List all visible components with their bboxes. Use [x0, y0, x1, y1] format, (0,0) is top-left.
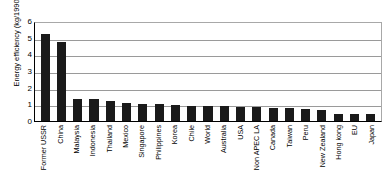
x-label-slot: EU	[347, 123, 363, 193]
x-label-slot: Non APEC LA	[249, 123, 265, 193]
bar-slot	[200, 23, 216, 121]
bar	[89, 99, 98, 121]
y-tick-label: 4	[28, 51, 32, 59]
y-tick-label: 3	[28, 68, 32, 76]
x-tick-label: EU	[352, 125, 359, 135]
bar-slot	[184, 23, 200, 121]
x-label-slot: Former USSR	[36, 123, 52, 193]
x-tick-label: Taiwan	[286, 125, 293, 147]
bar-slot	[118, 23, 134, 121]
y-tick-label: 6	[28, 18, 32, 26]
bar	[155, 104, 164, 121]
x-tick-label: Indonesia	[90, 125, 97, 156]
x-tick-label: Peru	[303, 125, 310, 140]
x-tick-label: Japan	[368, 125, 375, 145]
x-tick-label: Korea	[172, 125, 179, 144]
bar	[41, 34, 50, 121]
x-label-slot: Canada	[265, 123, 281, 193]
y-tick-label: 1	[28, 101, 32, 109]
bar	[236, 107, 245, 121]
bar-slot	[151, 23, 167, 121]
x-axis-tick-labels: Former USSRChinaMalaysiaIndonesiaThailan…	[34, 123, 382, 193]
x-label-slot: Hong kong	[331, 123, 347, 193]
bar	[122, 103, 131, 121]
bar-slot	[314, 23, 330, 121]
x-tick-label: USA	[237, 125, 244, 140]
bar-slot	[330, 23, 346, 121]
x-tick-label: Chile	[188, 125, 195, 141]
x-label-slot: New Zealand	[314, 123, 330, 193]
bar	[285, 108, 294, 121]
bar-slot	[86, 23, 102, 121]
bar-series	[35, 23, 381, 121]
bar-slot	[265, 23, 281, 121]
bar	[220, 106, 229, 121]
bar-chart: Energy efficiency (kg/1990 US$) 0123456 …	[0, 0, 392, 194]
bar	[171, 105, 180, 121]
plot-area	[34, 22, 382, 122]
bar-slot	[232, 23, 248, 121]
x-label-slot: Peru	[298, 123, 314, 193]
bar-slot	[216, 23, 232, 121]
bar-slot	[102, 23, 118, 121]
x-tick-label: Thailand	[106, 125, 113, 153]
x-label-slot: Mexico	[118, 123, 134, 193]
x-tick-label: Hong kong	[335, 125, 342, 160]
bar	[138, 104, 147, 122]
x-label-slot: Taiwan	[282, 123, 298, 193]
bar	[317, 110, 326, 121]
bar-slot	[346, 23, 362, 121]
bar-slot	[298, 23, 314, 121]
y-tick-label: 2	[28, 85, 32, 93]
x-tick-label: China	[57, 125, 64, 144]
bar-slot	[135, 23, 151, 121]
x-tick-label: Canada	[270, 125, 277, 150]
bar	[73, 99, 82, 122]
bar	[350, 114, 359, 122]
bar	[334, 114, 343, 122]
x-label-slot: Korea	[167, 123, 183, 193]
x-label-slot: Philippines	[151, 123, 167, 193]
y-axis-tick-labels: 0123456	[20, 22, 32, 122]
x-tick-label: World	[204, 125, 211, 144]
x-tick-label: Mexico	[122, 125, 129, 148]
x-tick-label: New Zealand	[319, 125, 326, 167]
bar	[366, 114, 375, 121]
bar-slot	[37, 23, 53, 121]
x-label-slot: Malaysia	[69, 123, 85, 193]
bar	[203, 106, 212, 121]
x-label-slot: Thailand	[102, 123, 118, 193]
bar	[57, 42, 66, 121]
y-tick-label: 5	[28, 35, 32, 43]
bar-slot	[167, 23, 183, 121]
x-label-slot: Chile	[183, 123, 199, 193]
x-label-slot: Japan	[364, 123, 380, 193]
x-label-slot: USA	[233, 123, 249, 193]
x-label-slot: Indonesia	[85, 123, 101, 193]
x-tick-label: Australia	[221, 125, 228, 153]
bar-slot	[363, 23, 379, 121]
bar	[269, 108, 278, 121]
bar	[252, 107, 261, 121]
x-tick-label: Non APEC LA	[253, 125, 260, 170]
bar	[187, 106, 196, 121]
x-tick-label: Philippines	[155, 125, 162, 160]
bar-slot	[70, 23, 86, 121]
x-label-slot: Australia	[216, 123, 232, 193]
bar-slot	[249, 23, 265, 121]
bar	[301, 109, 310, 121]
bar-slot	[53, 23, 69, 121]
bar	[106, 101, 115, 121]
x-label-slot: China	[52, 123, 68, 193]
x-label-slot: Singapore	[134, 123, 150, 193]
x-tick-label: Malaysia	[73, 125, 80, 153]
x-tick-label: Singapore	[139, 125, 146, 158]
y-tick-label: 0	[28, 118, 32, 126]
bar-slot	[281, 23, 297, 121]
x-tick-label: Former USSR	[41, 125, 48, 170]
x-label-slot: World	[200, 123, 216, 193]
